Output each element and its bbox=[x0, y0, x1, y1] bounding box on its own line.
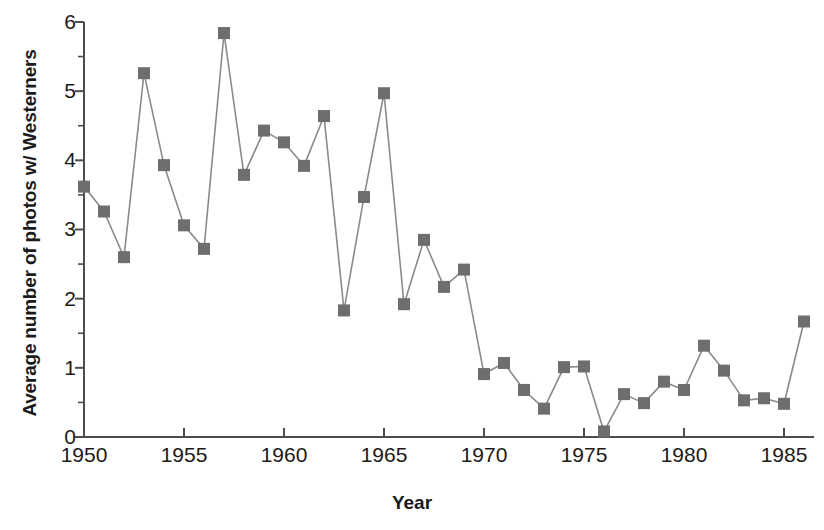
data-point-marker bbox=[758, 392, 770, 404]
data-point-marker bbox=[598, 425, 610, 437]
data-point-marker bbox=[238, 169, 250, 181]
data-point-marker bbox=[638, 397, 650, 409]
data-point-marker bbox=[138, 67, 150, 79]
data-point-marker bbox=[458, 264, 470, 276]
series-line bbox=[84, 33, 804, 431]
data-point-marker bbox=[398, 298, 410, 310]
chart-figure: Average number of photos w/ Westerners Y… bbox=[0, 0, 824, 530]
data-point-marker bbox=[118, 251, 130, 263]
data-point-marker bbox=[618, 388, 630, 400]
data-point-marker bbox=[378, 87, 390, 99]
data-point-marker bbox=[98, 206, 110, 218]
data-point-marker bbox=[178, 219, 190, 231]
data-point-marker bbox=[578, 360, 590, 372]
data-point-marker bbox=[78, 181, 90, 193]
data-point-marker bbox=[478, 368, 490, 380]
data-point-marker bbox=[278, 136, 290, 148]
data-markers bbox=[78, 27, 810, 437]
axis-lines bbox=[84, 22, 814, 437]
data-point-marker bbox=[658, 376, 670, 388]
data-point-marker bbox=[198, 243, 210, 255]
data-point-marker bbox=[338, 304, 350, 316]
data-point-marker bbox=[798, 315, 810, 327]
data-point-marker bbox=[298, 160, 310, 172]
data-point-marker bbox=[498, 357, 510, 369]
plot-area bbox=[0, 0, 824, 530]
data-point-marker bbox=[358, 191, 370, 203]
data-point-marker bbox=[418, 234, 430, 246]
data-point-marker bbox=[678, 384, 690, 396]
data-point-marker bbox=[718, 365, 730, 377]
data-point-marker bbox=[218, 27, 230, 39]
data-point-marker bbox=[558, 361, 570, 373]
data-line bbox=[84, 33, 804, 431]
data-point-marker bbox=[258, 125, 270, 137]
data-point-marker bbox=[538, 403, 550, 415]
data-point-marker bbox=[518, 384, 530, 396]
data-point-marker bbox=[698, 340, 710, 352]
data-point-marker bbox=[738, 394, 750, 406]
data-point-marker bbox=[318, 110, 330, 122]
data-point-marker bbox=[438, 281, 450, 293]
data-point-marker bbox=[158, 159, 170, 171]
data-point-marker bbox=[778, 398, 790, 410]
